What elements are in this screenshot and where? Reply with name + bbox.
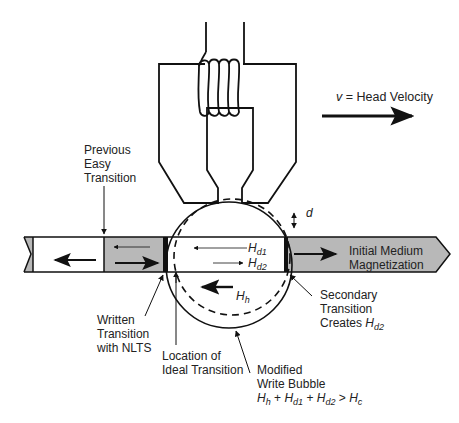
- bubble-condition: Hh + Hd1 + Hd2 > Hc: [257, 391, 362, 409]
- initial-medium-label: Initial Medium Magnetization: [349, 244, 424, 272]
- label-line: Secondary: [320, 288, 384, 302]
- field-symbol: H: [248, 241, 257, 255]
- label-line: Transition: [84, 171, 136, 185]
- operator: >: [339, 391, 346, 405]
- previous-easy-transition-label: Previous Easy Transition: [84, 143, 136, 185]
- field-symbol: H: [248, 256, 257, 270]
- label-line: Written: [97, 313, 151, 327]
- label-line: Modified: [257, 363, 362, 377]
- label-line: Ideal Transition: [162, 363, 243, 377]
- field-symbol: H: [349, 391, 358, 405]
- label-line: Transition: [320, 302, 384, 316]
- field-symbol: H: [284, 391, 293, 405]
- field-subscript: h: [266, 397, 271, 407]
- label-line: Magnetization: [349, 258, 424, 272]
- coil-turn-1: [198, 60, 209, 115]
- operator: +: [274, 391, 281, 405]
- written-transition-label: Written Transition with NLTS: [97, 313, 151, 355]
- label-line: Previous: [84, 143, 136, 157]
- modified-write-bubble-label: Modified Write Bubble Hh + Hd1 + Hd2 > H…: [257, 363, 362, 409]
- head-yoke: [159, 64, 296, 203]
- field-subscript: c: [358, 397, 363, 407]
- hh-label: Hh: [236, 289, 250, 307]
- secondary-transition-label: Secondary Transition Creates Hd2: [320, 288, 384, 334]
- original-write-bubble: [174, 199, 290, 315]
- field-symbol: H: [365, 316, 374, 330]
- label-line: Write Bubble: [257, 377, 362, 391]
- field-subscript: d2: [374, 322, 384, 332]
- modified-write-bubble: [166, 202, 292, 328]
- old-bit-region: [33, 237, 104, 272]
- field-subscript: d1: [293, 397, 303, 407]
- label-line: Transition: [97, 327, 151, 341]
- hd2-label: Hd2: [248, 256, 267, 274]
- label-text: Creates: [320, 316, 365, 330]
- label-line: with NLTS: [97, 341, 151, 355]
- spacing-label: d: [306, 206, 313, 220]
- velocity-label: v = Head Velocity: [336, 90, 433, 104]
- ideal-transition-label: Location of Ideal Transition: [162, 349, 243, 377]
- label-line: Initial Medium: [349, 244, 424, 258]
- previous-bit-region: [104, 237, 165, 272]
- operator: +: [306, 391, 313, 405]
- written-transition-leader: [145, 275, 163, 316]
- label-line: Location of: [162, 349, 243, 363]
- field-subscript: d2: [257, 262, 267, 272]
- field-subscript: d2: [325, 397, 335, 407]
- secondary-transition-leader: [290, 275, 312, 296]
- velocity-text: = Head Velocity: [342, 90, 433, 104]
- label-line: Easy: [84, 157, 136, 171]
- field-symbol: H: [257, 391, 266, 405]
- field-subscript: h: [245, 295, 250, 305]
- write-head: [159, 22, 296, 203]
- label-line: Creates Hd2: [320, 316, 384, 334]
- field-symbol: H: [236, 289, 245, 303]
